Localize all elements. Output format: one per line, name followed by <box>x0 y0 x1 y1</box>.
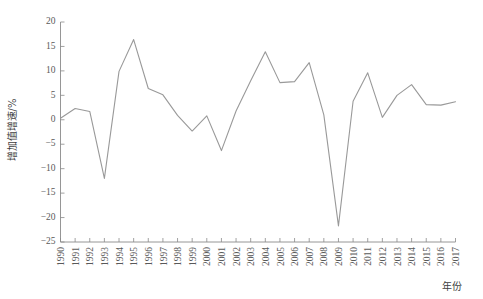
x-tick-label: 1990 <box>56 247 66 266</box>
axes <box>61 22 456 242</box>
x-tick-label: 1995 <box>129 247 139 266</box>
x-tick-label: 2001 <box>217 247 227 266</box>
x-tick-label: 2006 <box>290 247 300 266</box>
y-tick-label: 0 <box>51 114 56 124</box>
x-tick-label: 2008 <box>319 247 329 266</box>
y-tick-label: −20 <box>41 212 56 222</box>
x-tick-label: 1993 <box>100 247 110 266</box>
x-tick-label: 2015 <box>422 247 432 266</box>
x-axis-title: 年份 <box>442 280 462 292</box>
y-tick-label: 5 <box>51 90 56 100</box>
x-tick-label: 2011 <box>363 247 373 266</box>
y-tick-label: −15 <box>41 187 56 197</box>
x-tick-label: 2003 <box>246 247 256 266</box>
x-tick-label: 2002 <box>232 247 242 266</box>
x-tick-label: 1999 <box>188 247 198 266</box>
x-tick-label: 2017 <box>451 247 461 266</box>
data-series <box>61 40 456 226</box>
line-chart: 20151050−5−10−15−20−25 19901991199219931… <box>0 0 483 299</box>
y-tick-label: 20 <box>46 16 56 26</box>
x-tick-label: 1998 <box>173 247 183 266</box>
chart-container: 20151050−5−10−15−20−25 19901991199219931… <box>0 0 483 299</box>
series-polyline <box>61 40 456 226</box>
x-tick-label: 2013 <box>393 247 403 266</box>
x-tick-label: 2007 <box>305 247 315 266</box>
x-tick-label: 2000 <box>202 247 212 266</box>
y-tick-label: −25 <box>41 236 56 246</box>
y-axis-title: 增加值增速/% <box>6 99 18 162</box>
y-tick-label: −10 <box>41 163 56 173</box>
x-tick-label: 2004 <box>261 247 271 266</box>
x-tick-label: 1994 <box>115 247 125 266</box>
x-tick-label: 2012 <box>378 247 388 266</box>
x-tick-label: 2016 <box>436 247 446 266</box>
x-tick-label: 1996 <box>144 247 154 266</box>
x-tick-label: 2005 <box>276 247 286 266</box>
y-tick-label: 15 <box>46 41 56 51</box>
x-tick-label: 2010 <box>349 247 359 266</box>
x-tick-label: 2014 <box>407 247 417 266</box>
y-tick-label: −5 <box>45 138 55 148</box>
y-tick-label: 10 <box>46 65 56 75</box>
x-tick-label: 1991 <box>71 247 81 266</box>
x-tick-label: 1992 <box>85 247 95 266</box>
x-tick-label: 1997 <box>159 247 169 266</box>
x-tick-label: 2009 <box>334 247 344 266</box>
